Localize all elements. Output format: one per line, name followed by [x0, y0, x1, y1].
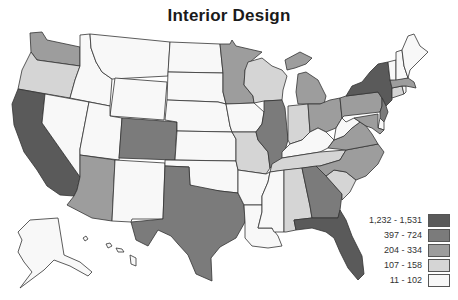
state-MI[interactable] [285, 52, 326, 104]
legend-label: 11 - 102 [390, 275, 422, 285]
legend-label: 397 - 724 [384, 230, 422, 240]
legend-row: 11 - 102 [390, 273, 450, 287]
state-IA[interactable] [226, 103, 264, 132]
state-ND[interactable] [168, 42, 223, 73]
legend-row: 397 - 724 [384, 228, 450, 242]
state-CO[interactable] [119, 118, 177, 160]
legend-row: 204 - 334 [384, 243, 450, 257]
state-AK[interactable] [18, 218, 92, 288]
legend-row: 107 - 158 [384, 258, 450, 272]
legend-swatch [428, 214, 450, 227]
state-NM[interactable] [112, 160, 165, 222]
state-MT[interactable] [90, 34, 170, 79]
state-WY[interactable] [110, 78, 167, 120]
state-KS[interactable] [175, 131, 236, 161]
legend-label: 107 - 158 [384, 260, 422, 270]
state-ME[interactable] [402, 34, 428, 78]
legend-swatch [428, 274, 450, 287]
legend-row: 1,232 - 1,531 [369, 213, 450, 227]
legend-swatch [428, 259, 450, 272]
legend-label: 204 - 334 [384, 245, 422, 255]
state-FL[interactable] [294, 210, 364, 280]
legend-swatch [428, 244, 450, 257]
state-SD[interactable] [167, 72, 226, 104]
state-HI[interactable] [83, 236, 136, 266]
legend-swatch [428, 229, 450, 242]
legend-label: 1,232 - 1,531 [369, 215, 422, 225]
